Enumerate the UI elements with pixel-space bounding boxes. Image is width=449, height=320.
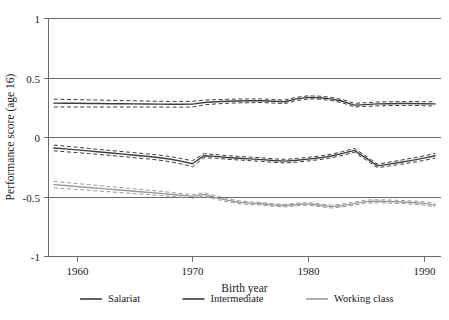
series-salariat	[54, 96, 435, 107]
trend-line	[54, 97, 435, 105]
y-tick-label: 1	[35, 13, 41, 25]
series-working-class	[54, 181, 435, 208]
x-tick-label: 1990	[414, 265, 437, 277]
series-intermediate	[54, 145, 435, 168]
grid-lines	[48, 19, 441, 257]
legend-item-salariat[interactable]: Salariat	[80, 293, 140, 304]
y-axis: 10.50-0.5-1	[23, 13, 49, 263]
chart-canvas: 10.50-0.5-1 1960197019801990 Birth yearP…	[0, 0, 449, 320]
y-tick-label: -0.5	[23, 192, 41, 204]
chart-legend: SalariatIntermediateWorking class	[80, 293, 394, 304]
legend-label: Working class	[334, 293, 394, 304]
legend-item-intermediate[interactable]: Intermediate	[182, 293, 263, 304]
x-tick-label: 1960	[67, 265, 90, 277]
x-tick-label: 1980	[298, 265, 321, 277]
legend-label: Salariat	[108, 293, 140, 304]
legend-label: Intermediate	[210, 293, 263, 304]
legend-item-working-class[interactable]: Working class	[306, 293, 394, 304]
y-tick-label: 0.5	[26, 73, 40, 85]
ci-upper-line	[54, 96, 435, 103]
x-tick-label: 1970	[182, 265, 205, 277]
performance-score-line-chart: 10.50-0.5-1 1960197019801990 Birth yearP…	[0, 0, 449, 320]
ci-upper-line	[54, 145, 435, 164]
x-axis: 1960197019801990	[48, 257, 441, 278]
y-axis-title: Performance score (age 16)	[4, 73, 17, 200]
y-tick-label: 0	[35, 132, 41, 144]
y-tick-label: -1	[31, 251, 40, 263]
series-group	[54, 96, 435, 208]
